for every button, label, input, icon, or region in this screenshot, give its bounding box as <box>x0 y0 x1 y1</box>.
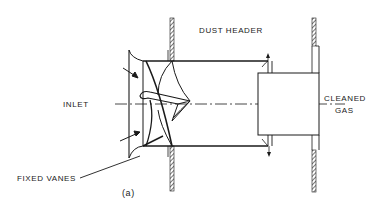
cyclone-tube-diagram: DUST HEADER INLET CLEANED GAS FIXED VANE… <box>0 0 381 211</box>
figure-caption: (a) <box>122 189 135 198</box>
cleaned-gas-label-line1: CLEANED <box>324 94 366 103</box>
fixed-vanes <box>140 61 190 146</box>
inlet-arrows <box>120 68 140 141</box>
fixed-vanes-label: FIXED VANES <box>17 174 76 183</box>
dust-header-left-wall <box>168 18 174 191</box>
fixed-vanes-leader <box>80 156 140 178</box>
cleaned-gas-label-line2: GAS <box>335 106 354 115</box>
outlet-tube <box>258 61 319 146</box>
inlet-label: INLET <box>63 100 89 109</box>
dust-header-label: DUST HEADER <box>199 26 263 35</box>
